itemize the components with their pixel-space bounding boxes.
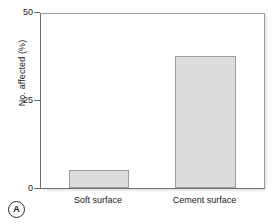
x-category-label: Cement surface bbox=[145, 195, 265, 205]
bar-soft-surface bbox=[69, 170, 129, 188]
y-tick-label: 50 bbox=[3, 8, 33, 17]
plot-frame bbox=[40, 13, 265, 189]
y-tick-label: 25 bbox=[3, 96, 33, 105]
panel-letter-badge: A bbox=[8, 201, 25, 218]
figure-panel: No. affected (%) 02550 Soft surfaceCemen… bbox=[0, 0, 277, 224]
x-category-label: Soft surface bbox=[38, 195, 158, 205]
y-axis-title: No. affected (%) bbox=[17, 18, 27, 128]
plot-area bbox=[41, 14, 264, 188]
bar-cement-surface bbox=[175, 56, 236, 188]
y-tick-label: 0 bbox=[3, 184, 33, 193]
